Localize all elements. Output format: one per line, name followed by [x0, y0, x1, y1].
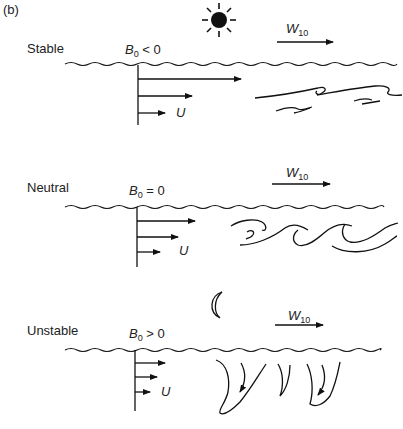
sea-surface-unstable	[65, 349, 381, 352]
regime-label-unstable: Unstable	[27, 323, 78, 338]
condition-text: > 0	[146, 326, 164, 341]
wind-symbol: W	[288, 308, 300, 323]
wind-label-unstable: W10	[288, 308, 310, 325]
buoyancy-condition-unstable: B0 > 0	[129, 326, 165, 343]
sun-icon	[202, 3, 236, 37]
panel-label: (b)	[3, 2, 19, 17]
velocity-label-stable: U	[176, 105, 185, 120]
buoyancy-symbol: B	[129, 326, 138, 341]
plumes-unstable	[216, 360, 340, 414]
buoyancy-subscript: 0	[134, 49, 139, 59]
velocity-label-neutral: U	[179, 243, 188, 258]
wind-label-stable: W10	[286, 21, 308, 38]
condition-text: = 0	[146, 183, 164, 198]
buoyancy-condition-neutral: B0 = 0	[129, 183, 165, 200]
wind-subscript: 10	[298, 172, 308, 182]
velocity-label-unstable: U	[161, 384, 170, 399]
buoyancy-subscript: 0	[138, 333, 143, 343]
diagram-canvas	[0, 0, 403, 429]
velocity-profile-unstable	[135, 350, 165, 411]
eddies-stable	[255, 86, 402, 113]
velocity-profile-stable	[138, 65, 241, 125]
wind-symbol: W	[286, 21, 298, 36]
sea-surface-neutral	[65, 206, 384, 209]
wind-subscript: 10	[300, 315, 310, 325]
wind-symbol: W	[286, 165, 298, 180]
eddies-neutral	[231, 220, 398, 252]
velocity-profile-neutral	[137, 207, 195, 267]
wind-subscript: 10	[298, 28, 308, 38]
regime-label-neutral: Neutral	[27, 180, 69, 195]
wind-label-neutral: W10	[286, 165, 308, 182]
buoyancy-condition-stable: B0 < 0	[125, 42, 161, 59]
buoyancy-symbol: B	[125, 42, 134, 57]
condition-text: < 0	[142, 42, 160, 57]
buoyancy-symbol: B	[129, 183, 138, 198]
regime-label-stable: Stable	[27, 41, 64, 56]
moon-icon	[212, 292, 222, 318]
buoyancy-subscript: 0	[138, 190, 143, 200]
sea-surface-stable	[65, 63, 397, 66]
